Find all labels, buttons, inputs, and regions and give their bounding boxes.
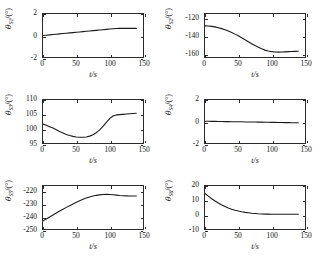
x-tick-label: 50 xyxy=(234,232,242,240)
y-tick-label: 0 xyxy=(195,211,202,219)
x-tick-mark xyxy=(111,141,112,144)
x-tick-mark-top xyxy=(77,100,78,103)
x-tick-label: 100 xyxy=(104,232,115,240)
x-tick-label: 100 xyxy=(104,60,115,68)
y-tick-label: 0 xyxy=(33,32,40,40)
y-tick-label: -220 xyxy=(23,187,40,195)
y-tick-mark-right xyxy=(141,14,144,15)
y-tick-mark xyxy=(43,37,46,38)
x-tick-label: 0 xyxy=(202,146,206,154)
y-tick-mark xyxy=(43,205,46,206)
y-tick-label: -2 xyxy=(31,54,40,62)
y-tick-mark xyxy=(205,186,208,187)
x-tick-mark xyxy=(307,227,308,230)
y-tick-mark xyxy=(43,130,46,131)
x-tick-mark-top xyxy=(77,14,78,17)
x-tick-mark xyxy=(239,55,240,58)
x-tick-mark xyxy=(273,227,274,230)
x-tick-label: 50 xyxy=(234,146,242,154)
y-tick-labels-theta-s6: 20100-10 xyxy=(160,185,202,230)
x-axis-label-theta-s5: t/s xyxy=(42,242,144,251)
y-tick-mark-right xyxy=(303,37,306,38)
y-tick-mark-right xyxy=(141,37,144,38)
subplot-theta-s5: θS5/(°)-220-230-240-250050100150t/s xyxy=(0,172,160,259)
x-tick-label: 150 xyxy=(138,232,149,240)
y-tick-mark-right xyxy=(141,115,144,116)
x-tick-mark-top xyxy=(307,186,308,189)
y-tick-label: -2 xyxy=(193,140,202,148)
x-tick-mark xyxy=(145,55,146,58)
x-axis-label-theta-s2: t/s xyxy=(204,70,306,79)
x-tick-label: 50 xyxy=(234,60,242,68)
plot-area-theta-s2 xyxy=(204,13,306,58)
x-tick-mark xyxy=(43,55,44,58)
x-tick-label: 50 xyxy=(72,60,80,68)
x-tick-mark-top xyxy=(273,186,274,189)
y-tick-label: 110 xyxy=(26,95,40,103)
subplot-theta-s1: θS1/(°)20-2050100150t/s xyxy=(0,0,160,86)
x-tick-label: 150 xyxy=(138,60,149,68)
x-tick-mark xyxy=(77,55,78,58)
y-tick-mark-right xyxy=(303,123,306,124)
x-tick-mark-top xyxy=(307,100,308,103)
plot-area-theta-s3 xyxy=(42,99,144,144)
x-tick-mark-top xyxy=(239,14,240,17)
plot-area-theta-s5 xyxy=(42,185,144,230)
x-tick-label: 0 xyxy=(40,232,44,240)
x-tick-mark-top xyxy=(205,14,206,17)
x-tick-mark-top xyxy=(145,100,146,103)
x-tick-mark xyxy=(307,141,308,144)
x-tick-label: 0 xyxy=(202,232,206,240)
y-tick-mark xyxy=(205,37,208,38)
x-tick-mark-top xyxy=(307,14,308,17)
y-tick-label: -120 xyxy=(185,14,202,22)
y-tick-mark-right xyxy=(141,130,144,131)
y-tick-label: 2 xyxy=(195,95,202,103)
y-tick-label: 100 xyxy=(26,125,40,133)
x-tick-mark xyxy=(205,227,206,230)
y-tick-labels-theta-s2: -120-140-160 xyxy=(160,13,202,58)
y-tick-mark-right xyxy=(141,192,144,193)
y-tick-mark xyxy=(205,19,208,20)
x-tick-label: 150 xyxy=(300,232,311,240)
x-tick-label: 0 xyxy=(40,60,44,68)
x-tick-mark xyxy=(145,227,146,230)
x-tick-mark-top xyxy=(273,14,274,17)
x-tick-mark xyxy=(77,141,78,144)
x-tick-mark xyxy=(307,55,308,58)
subplot-theta-s6: θS6/(°)20100-10050100150t/s xyxy=(160,172,320,259)
y-tick-mark xyxy=(205,201,208,202)
x-tick-mark-top xyxy=(145,186,146,189)
x-tick-label: 150 xyxy=(300,146,311,154)
x-tick-mark-top xyxy=(111,186,112,189)
curve-theta-s5 xyxy=(43,186,143,229)
y-tick-mark-right xyxy=(303,201,306,202)
subplot-theta-s2: θS2/(°)-120-140-160050100150t/s xyxy=(160,0,320,86)
y-tick-mark-right xyxy=(141,205,144,206)
y-tick-mark xyxy=(205,123,208,124)
x-axis-label-theta-s1: t/s xyxy=(42,70,144,79)
x-tick-mark xyxy=(111,227,112,230)
y-tick-mark-right xyxy=(141,100,144,101)
x-tick-label: 100 xyxy=(266,146,277,154)
y-tick-mark xyxy=(205,55,208,56)
curve-theta-s3 xyxy=(43,100,143,143)
y-tick-label: -230 xyxy=(23,200,40,208)
y-tick-labels-theta-s3: 11010510095 xyxy=(0,99,40,144)
subplot-theta-s4: θS4/(°)20-2050100150t/s xyxy=(160,86,320,172)
subplot-theta-s3: θS3/(°)11010510095050100150t/s xyxy=(0,86,160,172)
curve-theta-s6 xyxy=(205,186,305,229)
x-tick-mark-top xyxy=(111,100,112,103)
y-tick-label: -240 xyxy=(23,213,40,221)
x-tick-mark xyxy=(43,141,44,144)
y-tick-label: 2 xyxy=(33,9,40,17)
x-axis-label-theta-s3: t/s xyxy=(42,156,144,165)
plot-area-theta-s6 xyxy=(204,185,306,230)
x-tick-mark xyxy=(145,141,146,144)
y-tick-mark xyxy=(43,192,46,193)
x-tick-label: 0 xyxy=(202,60,206,68)
y-tick-labels-theta-s1: 20-2 xyxy=(0,13,40,58)
y-tick-mark xyxy=(205,216,208,217)
x-tick-mark xyxy=(273,55,274,58)
curve-theta-s2 xyxy=(205,14,305,57)
